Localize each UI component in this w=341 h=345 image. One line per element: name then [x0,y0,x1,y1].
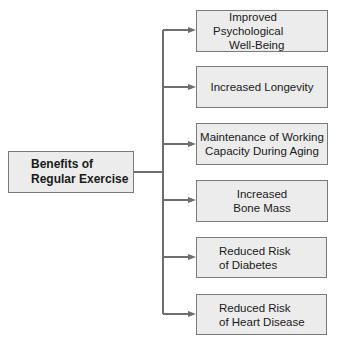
benefit-reduced-diabetes-risk: Reduced Riskof Diabetes [196,237,327,278]
benefit-line-1: Increased [237,188,288,200]
benefit-line-1: Reduced Risk [219,245,291,257]
benefit-line-2: of Diabetes [219,259,277,271]
benefit-line-2: of Heart Disease [219,316,305,328]
root-line-1: Benefits of [20,157,93,171]
benefit-line-2: Bone Mass [233,202,291,214]
benefit-reduced-heart-disease-risk: Reduced Riskof Heart Disease [196,294,327,335]
benefit-line-1: Increased Longevity [197,80,327,94]
root-line-2: Regular Exercise [20,172,128,186]
benefit-line-1: Improved Psychological [213,11,283,37]
benefit-working-capacity: Maintenance of WorkingCapacity During Ag… [196,123,328,165]
benefit-line-1: Reduced Risk [219,302,291,314]
benefit-increased-longevity: Increased Longevity [196,66,328,108]
benefit-bone-mass: IncreasedBone Mass [196,180,328,222]
benefit-psychological-well-being: Improved PsychologicalWell-Being [196,10,328,52]
benefit-line-1: Maintenance of Working [200,131,324,143]
root-node-benefits-of-regular-exercise: Benefits ofRegular Exercise [8,151,134,193]
benefit-line-2: Capacity During Aging [205,145,319,157]
benefit-line-2: Well-Being [213,39,284,51]
